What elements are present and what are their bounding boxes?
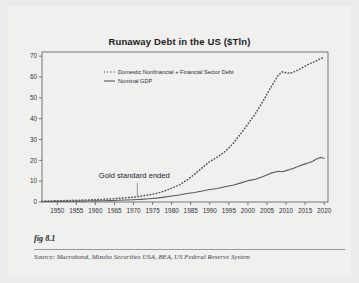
figure-card: Runaway Debt in the US ($Tln) 0102030405… [8,6,351,277]
chart-legend: Domestic Nonfinancial + Financial Sector… [104,69,234,84]
legend-label-0: Domestic Nonfinancial + Financial Sector… [118,69,234,75]
y-axis-tick-label: 40 [30,115,38,122]
x-axis-tick-label: 2010 [279,207,294,214]
x-axis-tick-label: 2015 [298,207,313,214]
x-axis-tick-label: 2000 [241,207,256,214]
x-axis-tick-label: 1950 [50,207,65,214]
y-axis-tick-label: 10 [30,177,38,184]
source-note: Source: Macrobond, Mizuho Securities USA… [34,253,349,260]
legend-label-1: Nominal GDP [118,78,152,84]
x-axis-tick-label: 1970 [126,207,141,214]
x-axis-tick-label: 1985 [184,207,199,214]
chart-svg: 0102030405060701950195519601965197019751… [8,6,351,277]
x-axis-tick-label: 1995 [222,207,237,214]
x-axis-tick-label: 1960 [88,207,103,214]
x-axis-tick-label: 2005 [260,207,275,214]
source-divider [34,249,345,250]
y-axis-tick-label: 60 [30,73,38,80]
x-axis-tick-label: 1975 [145,207,160,214]
chart-annotation-label: Gold standard ended [99,171,170,180]
series-line-1 [42,157,324,201]
chart-plot-area: 0102030405060701950195519601965197019751… [8,6,351,277]
axes-group: 0102030405060701950195519601965197019751… [30,52,332,214]
series-line-0 [42,58,324,202]
series-group [42,58,324,202]
x-axis-tick-label: 1980 [165,207,180,214]
x-axis-tick-label: 1990 [203,207,218,214]
figure-number: fig 8.1 [34,234,55,243]
y-axis-tick-label: 30 [30,136,38,143]
x-axis-tick-label: 1965 [107,207,122,214]
x-axis-tick-label: 1955 [69,207,84,214]
y-axis-tick-label: 50 [30,94,38,101]
y-axis-tick-label: 0 [33,198,37,205]
y-axis-tick-label: 20 [30,157,38,164]
y-axis-tick-label: 70 [30,52,38,59]
x-axis-tick-label: 2020 [317,207,332,214]
